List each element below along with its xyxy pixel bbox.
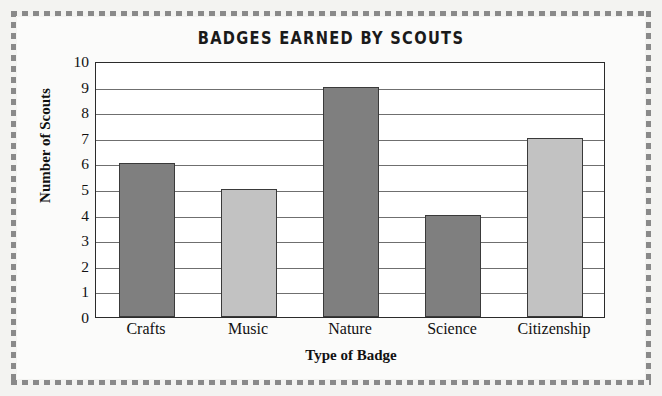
x-axis-tick-labels: CraftsMusicNatureScienceCitizenship — [95, 320, 605, 344]
bars-layer — [96, 63, 604, 317]
x-axis-title: Type of Badge — [95, 347, 607, 364]
bar-music[interactable] — [221, 189, 277, 317]
bar-nature[interactable] — [323, 87, 379, 317]
x-tick-label-science: Science — [427, 320, 477, 338]
x-tick-label-nature: Nature — [328, 320, 372, 338]
y-tick-label-9: 9 — [55, 80, 89, 96]
y-tick-label-10: 10 — [55, 54, 89, 70]
bar-crafts[interactable] — [119, 163, 175, 317]
bar-science[interactable] — [425, 215, 481, 317]
y-tick-label-3: 3 — [55, 233, 89, 249]
y-tick-label-5: 5 — [55, 182, 89, 198]
x-tick-label-citizenship: Citizenship — [518, 320, 591, 338]
y-tick-label-6: 6 — [55, 157, 89, 173]
y-tick-label-2: 2 — [55, 259, 89, 275]
x-tick-label-music: Music — [228, 320, 268, 338]
bar-chart: BADGES EARNED BY SCOUTS Number of Scouts… — [17, 17, 645, 379]
y-tick-label-4: 4 — [55, 208, 89, 224]
y-axis-title: Number of Scouts — [37, 56, 54, 236]
y-tick-label-7: 7 — [55, 131, 89, 147]
bar-citizenship[interactable] — [527, 138, 583, 317]
y-axis-tick-labels: 012345678910 — [55, 62, 89, 318]
y-tick-label-1: 1 — [55, 285, 89, 301]
chart-title: BADGES EARNED BY SCOUTS — [39, 28, 623, 48]
plot-area — [95, 62, 605, 318]
y-tick-label-8: 8 — [55, 105, 89, 121]
chart-page: BADGES EARNED BY SCOUTS Number of Scouts… — [0, 0, 662, 396]
y-tick-label-0: 0 — [55, 310, 89, 326]
x-tick-label-crafts: Crafts — [126, 320, 165, 338]
